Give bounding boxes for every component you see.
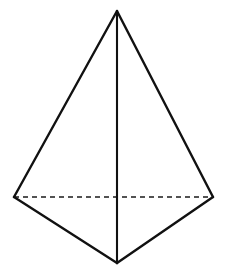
geometry-figure-canvas: [0, 0, 227, 272]
tetrahedron-drawing: [0, 0, 227, 272]
